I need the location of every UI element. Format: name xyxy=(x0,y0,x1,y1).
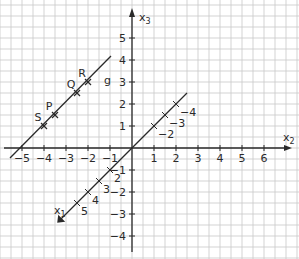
x3-arrow-icon xyxy=(129,8,135,17)
x2-tick-label: 2 xyxy=(173,152,180,165)
x1-tick-label: −2 xyxy=(158,128,174,141)
x2-tick-label: 3 xyxy=(195,152,202,165)
x2-tick-label: −5 xyxy=(14,152,30,165)
x3-tick-label: 4 xyxy=(119,54,126,67)
x1-tick-label: 5 xyxy=(81,205,88,218)
x3-axis-label: x3 xyxy=(139,11,151,26)
x2-tick-label: 1 xyxy=(151,152,158,165)
x3-tick-label: −2 xyxy=(110,186,126,199)
point-label-r: R xyxy=(78,67,86,80)
x3-tick-label: −3 xyxy=(110,208,126,221)
x2-tick-label: −4 xyxy=(36,152,52,165)
axes xyxy=(4,8,292,252)
x3-tick-label: −4 xyxy=(110,230,126,243)
point-label-p: P xyxy=(46,100,53,113)
x2-tick-label: 4 xyxy=(217,152,224,165)
x1-tick-label: 2 xyxy=(114,172,121,185)
x3-tick-label: 5 xyxy=(119,32,126,45)
x2-axis-label: x2 xyxy=(283,131,295,146)
x3-tick-label: 2 xyxy=(119,98,126,111)
x1-tick-label: 4 xyxy=(92,194,99,207)
grid xyxy=(0,0,299,259)
point-label-s: S xyxy=(35,111,42,124)
x2-tick-label: −3 xyxy=(58,152,74,165)
x1-axis-label: x1 xyxy=(54,204,66,219)
point-label-q: Q xyxy=(67,78,76,91)
x2-tick-label: 5 xyxy=(239,152,246,165)
x2-axis-label-sub: 2 xyxy=(290,137,295,146)
coordinate-diagram: −5−4−3−2−1123456−4−3−2−112345−4−3−22345x… xyxy=(0,0,299,259)
x3-axis-label-sub: 3 xyxy=(146,17,151,26)
x2-tick-label: −2 xyxy=(80,152,96,165)
x3-tick-label: 3 xyxy=(119,76,126,89)
line-g-label: g xyxy=(104,74,111,87)
x1-axis-label-sub: 1 xyxy=(61,210,66,219)
x2-tick-label: 6 xyxy=(261,152,268,165)
x3-tick-label: 1 xyxy=(119,120,126,133)
x1-tick-label: 3 xyxy=(103,183,110,196)
